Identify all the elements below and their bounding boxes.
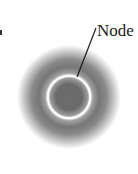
electron-density-cloud xyxy=(17,45,121,149)
cropped-glyph xyxy=(0,30,2,35)
node-label: Node xyxy=(97,22,134,39)
orbital-diagram: Node xyxy=(0,0,138,174)
